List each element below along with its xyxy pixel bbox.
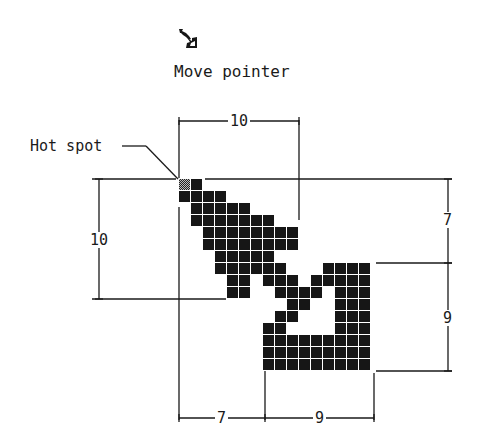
cursor-pixel bbox=[347, 335, 358, 346]
cursor-pixel bbox=[203, 239, 214, 250]
cursor-pixel bbox=[239, 203, 250, 214]
cursor-pixel bbox=[287, 275, 298, 286]
cursor-pixel bbox=[311, 287, 322, 298]
cursor-pixel bbox=[323, 335, 334, 346]
cursor-pixel bbox=[263, 215, 274, 226]
cursor-pixel bbox=[347, 299, 358, 310]
cursor-pixel bbox=[275, 311, 286, 322]
cursor-pixel bbox=[347, 311, 358, 322]
cursor-pixel bbox=[263, 251, 274, 262]
cursor-pixel bbox=[287, 227, 298, 238]
cursor-pixel bbox=[227, 275, 238, 286]
cursor-pixel bbox=[311, 359, 322, 370]
cursor-pixel bbox=[347, 359, 358, 370]
cursor-pixel bbox=[275, 323, 286, 334]
cursor-pixel bbox=[251, 227, 262, 238]
cursor-pixel bbox=[323, 359, 334, 370]
cursor-pixel bbox=[251, 251, 262, 262]
cursor-pixel bbox=[215, 239, 226, 250]
cursor-pixel bbox=[287, 347, 298, 358]
right-lower-height-label: 9 bbox=[441, 310, 454, 326]
cursor-pixel bbox=[275, 239, 286, 250]
cursor-pixel bbox=[347, 263, 358, 274]
cursor-pixel bbox=[227, 251, 238, 262]
cursor-pixel bbox=[347, 287, 358, 298]
hot-spot-pixel bbox=[179, 179, 190, 190]
cursor-pixel bbox=[275, 263, 286, 274]
cursor-pixel bbox=[359, 311, 370, 322]
cursor-pixel bbox=[227, 287, 238, 298]
cursor-pixel bbox=[299, 299, 310, 310]
cursor-pixel bbox=[263, 335, 274, 346]
cursor-pixel bbox=[191, 203, 202, 214]
cursor-pixel bbox=[263, 323, 274, 334]
cursor-pixel bbox=[203, 227, 214, 238]
cursor-pixel bbox=[263, 347, 274, 358]
cursor-pixel bbox=[203, 191, 214, 202]
cursor-pixel bbox=[191, 215, 202, 226]
cursor-pixel bbox=[263, 359, 274, 370]
cursor-pixel bbox=[203, 203, 214, 214]
hot-spot-label: Hot spot bbox=[28, 138, 104, 154]
cursor-pixel bbox=[359, 263, 370, 274]
cursor-pixel bbox=[275, 347, 286, 358]
cursor-pixel bbox=[239, 239, 250, 250]
cursor-pixel bbox=[227, 203, 238, 214]
cursor-pixel bbox=[179, 191, 190, 202]
cursor-pixel bbox=[323, 347, 334, 358]
cursor-pixel bbox=[311, 347, 322, 358]
cursor-pixel bbox=[227, 215, 238, 226]
cursor-pixel bbox=[335, 287, 346, 298]
cursor-pixel bbox=[299, 359, 310, 370]
cursor-pixel bbox=[191, 179, 202, 190]
cursor-pixel bbox=[239, 275, 250, 286]
cursor-pixel bbox=[287, 299, 298, 310]
cursor-pixel bbox=[275, 275, 286, 286]
bottom-left-width-label: 7 bbox=[215, 410, 228, 426]
cursor-pixel bbox=[323, 263, 334, 274]
cursor-pixel bbox=[251, 263, 262, 274]
cursor-pixel bbox=[263, 239, 274, 250]
cursor-pixel bbox=[299, 335, 310, 346]
cursor-pixel bbox=[275, 227, 286, 238]
cursor-pixel bbox=[335, 311, 346, 322]
cursor-pixel bbox=[227, 263, 238, 274]
top-width-label: 10 bbox=[228, 113, 250, 129]
bottom-right-width-label: 9 bbox=[313, 410, 326, 426]
cursor-pixel bbox=[323, 275, 334, 286]
cursor-pixel bbox=[287, 335, 298, 346]
cursor-pixel bbox=[251, 239, 262, 250]
cursor-pixel bbox=[359, 347, 370, 358]
cursor-pixel bbox=[359, 323, 370, 334]
cursor-pixel bbox=[251, 215, 262, 226]
cursor-pixel bbox=[275, 335, 286, 346]
cursor-pixel bbox=[275, 287, 286, 298]
cursor-pixel bbox=[335, 263, 346, 274]
cursor-pixel bbox=[287, 359, 298, 370]
cursor-pixel bbox=[215, 251, 226, 262]
cursor-pixel bbox=[263, 227, 274, 238]
cursor-pixel bbox=[335, 335, 346, 346]
cursor-pixel bbox=[311, 275, 322, 286]
cursor-pixel bbox=[335, 323, 346, 334]
cursor-pixel bbox=[239, 263, 250, 274]
cursor-pixel bbox=[359, 359, 370, 370]
cursor-pixel bbox=[239, 251, 250, 262]
cursor-pixel bbox=[335, 275, 346, 286]
cursor-pixel bbox=[299, 347, 310, 358]
cursor-pixel bbox=[359, 335, 370, 346]
cursor-pixel bbox=[215, 215, 226, 226]
cursor-pixel bbox=[191, 191, 202, 202]
cursor-pixel bbox=[347, 323, 358, 334]
cursor-pixel bbox=[263, 263, 274, 274]
cursor-pixel bbox=[239, 287, 250, 298]
cursor-pixel bbox=[215, 191, 226, 202]
cursor-pixel bbox=[347, 347, 358, 358]
right-upper-height-label: 7 bbox=[441, 212, 454, 228]
cursor-pixel bbox=[215, 263, 226, 274]
cursor-pixel bbox=[335, 359, 346, 370]
cursor-pixel bbox=[227, 227, 238, 238]
cursor-pixel bbox=[287, 311, 298, 322]
cursor-pixel bbox=[299, 287, 310, 298]
cursor-pixel bbox=[359, 299, 370, 310]
